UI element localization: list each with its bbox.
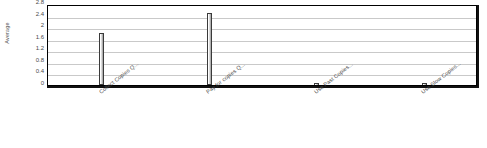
y-axis-tick: 0.4 [18, 68, 44, 74]
x-axis-tick-labels: Collect Copies Q...Pay for copies Q...Us… [0, 86, 487, 148]
bar [99, 33, 104, 85]
y-axis-tick-labels: 2.82.421.61.20.80.40 [18, 2, 44, 86]
y-axis-tick: 0.8 [18, 57, 44, 63]
gridline [48, 52, 476, 53]
bar-chart-figure: Average 2.82.421.61.20.80.40 Collect Cop… [0, 0, 487, 148]
gridline [48, 29, 476, 30]
plot-area [48, 6, 476, 85]
y-axis-tick: 2.4 [18, 11, 44, 17]
gridline [48, 41, 476, 42]
y-axis-title: Average [4, 10, 10, 56]
y-axis-tick: 2.8 [18, 0, 44, 5]
gridline [48, 18, 476, 19]
y-axis-tick: 1.6 [18, 34, 44, 40]
bar [207, 13, 212, 85]
y-axis-tick: 1.2 [18, 45, 44, 51]
gridline [48, 75, 476, 76]
plot-frame [47, 5, 477, 86]
gridline [48, 64, 476, 65]
y-axis-tick: 2 [18, 22, 44, 28]
